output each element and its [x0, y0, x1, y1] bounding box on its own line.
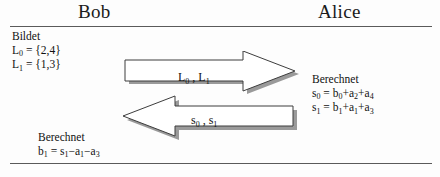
bob-set-l0: L0 = {2,4} [12, 44, 61, 59]
alice-computes-heading: Berechnet [312, 73, 374, 87]
divider-bottom [10, 163, 432, 164]
bob-set-l0-value: = {2,4} [23, 44, 61, 56]
bob-set-l1: L1 = {1,3} [12, 58, 61, 73]
bob-set-l1-index: 1 [19, 64, 23, 73]
protocol-diagram: Bob Alice Bildet L0 = {2,4} L1 = {1,3} B… [0, 0, 440, 177]
bob-forms-block: Bildet L0 = {2,4} L1 = {1,3} [12, 30, 61, 73]
divider-top [10, 26, 432, 27]
message-label-bob-to-alice: L0 , L1 [178, 70, 210, 85]
bob-set-l0-index: 0 [19, 49, 23, 58]
bob-set-l1-symbol: L [12, 58, 19, 70]
message-arrow-bob-to-alice [123, 51, 303, 97]
bob-set-l1-value: = {1,3} [23, 58, 61, 70]
alice-formula-s0: s0 = b0+a2+a4 [312, 87, 374, 102]
bob-forms-heading: Bildet [12, 30, 61, 44]
alice-formula-s1: s1 = b1+a1+a3 [312, 101, 374, 116]
bob-computes-block: Berechnet b1 = s1−a1−a3 [38, 131, 100, 159]
party-label-alice: Alice [318, 1, 361, 23]
bob-formula-b1: b1 = s1−a1−a3 [38, 145, 100, 160]
party-label-bob: Bob [78, 1, 111, 23]
message-label-alice-to-bob: s0 , s1 [191, 113, 217, 128]
bob-computes-heading: Berechnet [38, 131, 100, 145]
alice-computes-block: Berechnet s0 = b0+a2+a4 s1 = b1+a1+a3 [312, 73, 374, 116]
bob-set-l0-symbol: L [12, 44, 19, 56]
